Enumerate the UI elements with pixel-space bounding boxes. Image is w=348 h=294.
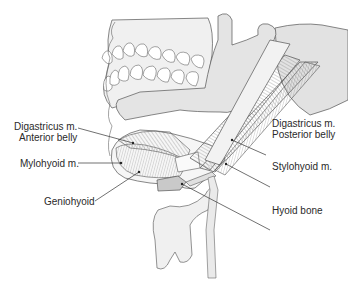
label-stylohyoid: Stylohyoid m. xyxy=(272,161,332,172)
label-digastric-posterior-belly: Digastricus m. Posterior belly xyxy=(272,118,335,140)
anatomy-illustration xyxy=(0,0,348,294)
label-hyoid-bone: Hyoid bone xyxy=(272,205,323,216)
thyroid-cartilage xyxy=(153,188,214,269)
label-geniohyoid: Geniohyoid xyxy=(44,196,95,207)
label-digastric-anterior-belly: Digastricus m. Anterior belly xyxy=(14,121,77,143)
label-mylohyoid: Mylohyoid m. xyxy=(20,158,79,169)
